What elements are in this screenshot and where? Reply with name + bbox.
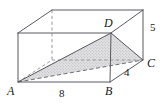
vertex-label-B: B <box>105 85 112 97</box>
edge-top-right-receding-D <box>111 10 143 33</box>
vertex-label-A: A <box>7 85 14 97</box>
measurement-label-AB: 8 <box>59 88 65 99</box>
vertex-label-C: C <box>147 57 155 69</box>
vertex-label-D: D <box>104 17 113 29</box>
box-diagram-svg <box>0 0 165 106</box>
geometry-figure: A B C D 8 4 5 <box>0 0 165 106</box>
edge-top-left-receding <box>18 10 52 33</box>
measurement-label-height: 5 <box>150 22 156 33</box>
measurement-label-BC: 4 <box>124 67 130 78</box>
